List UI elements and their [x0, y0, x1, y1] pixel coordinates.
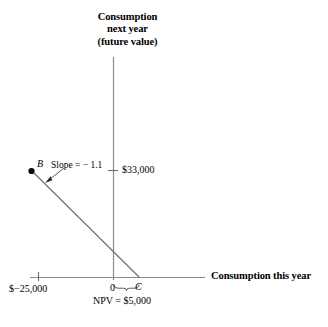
y-axis-title-line-2: next year [75, 23, 180, 35]
point-c-label: C [135, 281, 142, 293]
point-b-marker [28, 168, 34, 174]
slope-leader-arrow-icon [45, 176, 52, 183]
y-axis-title: Consumption next year (future value) [75, 11, 180, 48]
y-tick-label-33000: $33,000 [122, 164, 155, 176]
figure-container: Consumption next year (future value) Con… [0, 0, 328, 327]
y-axis-title-line-1: Consumption [75, 11, 180, 23]
point-b-label: B [37, 158, 43, 170]
origin-label: 0 [110, 282, 115, 294]
x-axis-title: Consumption this year [211, 270, 311, 282]
budget-line [32, 171, 139, 277]
npv-annotation-label: NPV = $5,000 [93, 295, 151, 307]
y-axis-title-line-3: (future value) [75, 36, 180, 48]
slope-annotation-label: Slope = − 1.1 [51, 160, 102, 171]
x-tick-label-minus25000: $−25,000 [9, 283, 47, 295]
